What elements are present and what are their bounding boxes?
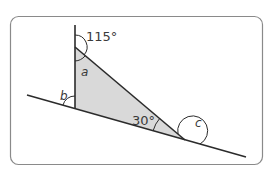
label-c: c [195,116,202,130]
diagram-frame [11,17,263,165]
label-a: a [81,65,88,79]
label-30: 30° [132,113,155,128]
label-115: 115° [86,29,117,44]
triangle-angle-diagram: 115° a b 30° c [0,0,277,171]
label-b: b [60,89,68,103]
